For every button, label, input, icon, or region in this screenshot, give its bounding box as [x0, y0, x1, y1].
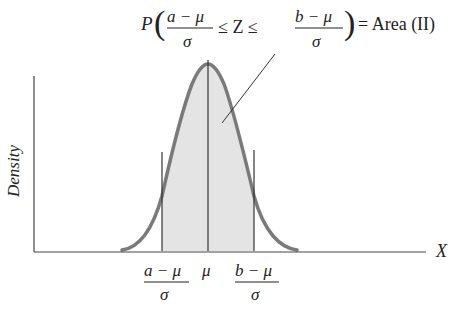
chart-figure: P ( a − μ σ ≤ Z ≤ b − μ σ ) = Area (II) …	[0, 0, 463, 309]
title-num-b: b − μ	[295, 7, 332, 26]
normal-curve-plot: P ( a − μ σ ≤ Z ≤ b − μ σ ) = Area (II) …	[0, 0, 463, 309]
tick-a-den: σ	[160, 285, 169, 304]
annotation-pointer	[222, 54, 275, 123]
left-paren: (	[154, 4, 165, 42]
right-paren: )	[344, 4, 355, 42]
title-area: = Area (II)	[358, 14, 435, 35]
y-axis-label: Density	[4, 145, 23, 198]
tick-mu: μ	[201, 261, 211, 280]
tick-b-num: b − μ	[235, 261, 272, 280]
title-inequality: ≤ Z ≤	[218, 17, 258, 37]
tick-b-den: σ	[251, 285, 260, 304]
x-axis-label: X	[435, 241, 448, 261]
title-num-a: a − μ	[167, 7, 204, 26]
title-den-b: σ	[312, 32, 321, 51]
title-den-a: σ	[183, 32, 192, 51]
title-P: P	[140, 13, 153, 34]
tick-a-num: a − μ	[144, 261, 181, 280]
